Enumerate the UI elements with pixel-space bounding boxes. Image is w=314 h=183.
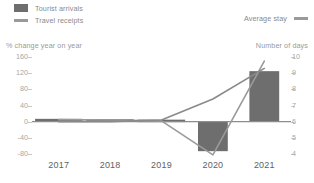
left-axis-tick-label: -40 bbox=[2, 134, 28, 142]
line-average-stay bbox=[59, 68, 265, 121]
left-axis-title: % change year on year bbox=[6, 41, 82, 50]
left-axis-tick-mark bbox=[28, 73, 32, 74]
left-axis-tick-mark bbox=[28, 89, 32, 90]
bar-swatch-icon bbox=[14, 4, 28, 12]
legend-item-average-stay[interactable]: Average stay bbox=[244, 13, 308, 23]
line-swatch-icon bbox=[294, 17, 308, 20]
legend-item-tourist-arrivals[interactable]: Tourist arrivals bbox=[14, 3, 83, 13]
left-axis-tick-mark bbox=[28, 57, 32, 58]
x-axis-label-2020: 2020 bbox=[193, 160, 233, 170]
x-axis-labels: 20172018201920202021 bbox=[0, 160, 314, 178]
left-axis-tick-label: 160 bbox=[2, 53, 28, 61]
legend-item-label: Average stay bbox=[244, 14, 287, 23]
tourism-indicators-chart: Tourist arrivals Travel receipts Average… bbox=[0, 0, 314, 183]
left-axis-tick-mark bbox=[28, 138, 32, 139]
line-swatch-icon bbox=[14, 19, 28, 22]
left-axis-tick-label: -80 bbox=[2, 150, 28, 158]
right-axis-tick-label: 4 bbox=[292, 150, 314, 158]
left-axis-tick-label: 0 bbox=[2, 118, 28, 126]
legend-left: Tourist arrivals Travel receipts bbox=[14, 3, 83, 25]
right-axis-tick-label: 10 bbox=[292, 53, 314, 61]
legend-item-label: Tourist arrivals bbox=[35, 4, 83, 13]
x-axis-label-2018: 2018 bbox=[90, 160, 130, 170]
x-axis-label-2019: 2019 bbox=[142, 160, 182, 170]
left-axis-tick-mark bbox=[28, 122, 32, 123]
line-travel-receipts bbox=[59, 61, 265, 155]
left-axis-tick-label: 120 bbox=[2, 69, 28, 77]
right-axis-tick-label: 7 bbox=[292, 102, 314, 110]
legend-right: Average stay bbox=[244, 13, 308, 23]
plot-area: 16012080400-40-8010987654 bbox=[0, 53, 314, 158]
right-axis-tick-label: 8 bbox=[292, 85, 314, 93]
right-axis-tick-label: 9 bbox=[292, 69, 314, 77]
right-axis-tick-label: 6 bbox=[292, 118, 314, 126]
plot-svg bbox=[0, 53, 314, 158]
legend-item-travel-receipts[interactable]: Travel receipts bbox=[14, 15, 83, 25]
left-axis-tick-label: 80 bbox=[2, 85, 28, 93]
right-axis-title: Number of days bbox=[256, 41, 308, 50]
left-axis-tick-mark bbox=[28, 154, 32, 155]
legend-item-label: Travel receipts bbox=[35, 16, 83, 25]
x-axis-label-2017: 2017 bbox=[39, 160, 79, 170]
left-axis-tick-mark bbox=[28, 106, 32, 107]
right-axis-tick-label: 5 bbox=[292, 134, 314, 142]
x-axis-label-2021: 2021 bbox=[244, 160, 284, 170]
left-axis-tick-label: 40 bbox=[2, 102, 28, 110]
